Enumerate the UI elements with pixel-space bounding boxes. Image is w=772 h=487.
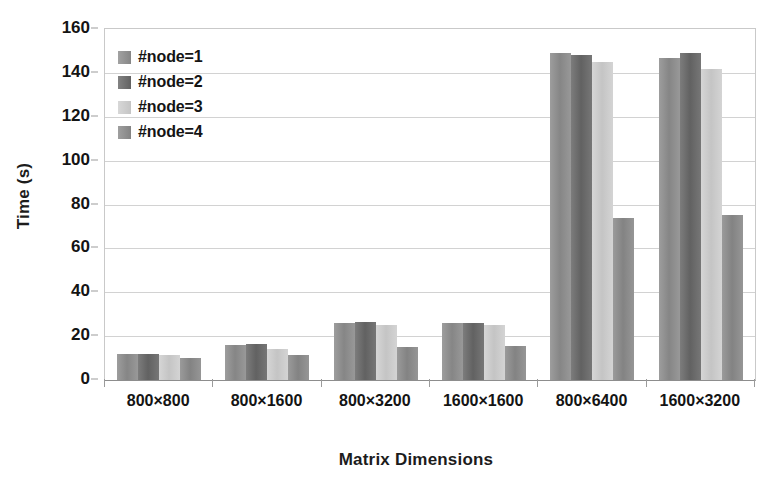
bar-group [538,29,646,380]
legend-label: #node=1 [138,48,203,66]
legend: #node=1#node=2#node=3#node=4 [118,48,203,141]
y-axis-tick-label: 20 [71,325,90,345]
y-axis-tick-label: 40 [71,281,90,301]
y-axis-tick-labels: 160140120100806040200 [46,28,98,379]
y-axis-tick-label: 100 [62,150,90,170]
legend-item: #node=4 [118,123,203,141]
bar-group [213,29,321,380]
bar [225,345,246,380]
legend-swatch-icon [118,51,131,64]
bar [180,358,201,380]
bar [701,69,722,381]
legend-swatch-icon [118,126,131,139]
bar [355,322,376,380]
x-axis-tick-label: 800×800 [104,392,212,410]
bar-group [322,29,430,380]
x-axis-tick-mark [212,379,213,387]
legend-swatch-icon [118,76,131,89]
y-axis-tick-mark [91,159,98,160]
y-axis-tick-mark [91,203,98,204]
bar [613,218,634,380]
bar [550,53,571,380]
bar [571,55,592,380]
bar [484,325,505,380]
bar [246,344,267,380]
legend-item: #node=3 [118,98,203,116]
y-axis-tick-label: 0 [81,369,90,389]
bar [138,354,159,380]
y-axis-tick-mark [91,28,98,29]
x-axis-tick-mark [429,379,430,387]
x-axis-tick-mark [754,379,755,387]
x-axis-tick-label: 800×6400 [537,392,645,410]
bar-group [647,29,755,380]
legend-item: #node=1 [118,48,203,66]
bar [334,323,355,380]
bar [376,325,397,380]
x-axis-tick-marks [104,379,754,391]
y-axis-tick-label: 80 [71,194,90,214]
y-axis-tick-label: 160 [62,18,90,38]
bar [159,355,180,380]
y-axis-title: Time (s) [14,136,34,256]
y-axis-tick-mark [91,115,98,116]
y-axis-tick-mark [91,71,98,72]
bar [267,349,288,380]
x-axis-tick-label: 1600×1600 [429,392,537,410]
bar [442,323,463,380]
bar [659,58,680,380]
x-axis-tick-mark [321,379,322,387]
legend-label: #node=2 [138,73,203,91]
y-axis-tick-mark [91,291,98,292]
legend-swatch-icon [118,101,131,114]
legend-label: #node=4 [138,123,203,141]
bar [722,215,743,380]
bar [592,62,613,380]
bar [397,347,418,380]
x-axis-tick-mark [646,379,647,387]
x-axis-tick-label: 800×1600 [212,392,320,410]
legend-label: #node=3 [138,98,203,116]
y-axis-tick-mark [91,335,98,336]
y-axis-tick-label: 60 [71,237,90,257]
y-axis-tick-label: 140 [62,62,90,82]
bar-chart-figure: Time (s) 160140120100806040200 800×80080… [0,0,772,487]
bar [463,323,484,380]
bar [117,354,138,380]
x-axis-tick-label: 800×3200 [321,392,429,410]
y-axis-tick-mark [91,379,98,380]
x-axis-tick-label: 1600×3200 [646,392,754,410]
y-axis-tick-mark [91,247,98,248]
bar [505,346,526,380]
x-axis-tick-mark [537,379,538,387]
bar [680,53,701,380]
bar [288,355,309,380]
legend-item: #node=2 [118,73,203,91]
y-axis-tick-label: 120 [62,106,90,126]
bar-group [430,29,538,380]
x-axis-title: Matrix Dimensions [0,450,772,470]
x-axis-tick-labels: 800×800800×1600800×32001600×1600800×6400… [104,392,754,410]
x-axis-tick-mark [104,379,105,387]
